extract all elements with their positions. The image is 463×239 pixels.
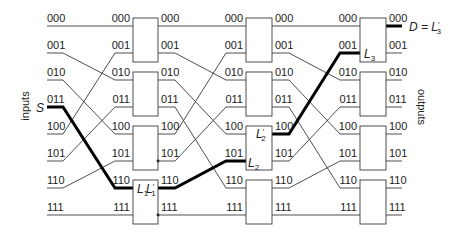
switch-box-stage-1-3 — [133, 126, 158, 170]
switch-box-stage-3-4 — [360, 180, 386, 224]
switch-box-stage-2-4 — [246, 180, 272, 224]
stage1-in-label: 111 — [113, 201, 130, 213]
outputs-axis-label: outputs — [416, 89, 428, 126]
stage2-in-label: 111 — [226, 201, 243, 213]
shuffle-exchange-network-diagram: 0000010100111001011101110000010100111001… — [0, 0, 463, 239]
stage3-in-label: 110 — [339, 174, 357, 186]
stage3-in-label: 010 — [339, 66, 357, 78]
input-label: 111 — [47, 201, 64, 213]
stage1-out-label: 110 — [161, 174, 179, 186]
output-label: 010 — [389, 66, 407, 78]
output-label: 100 — [389, 120, 407, 132]
port-labels: 0000010100111001011101110000010100111001… — [47, 12, 407, 213]
stage2-in-label: 000 — [225, 12, 243, 24]
stage1-out-label: 101 — [161, 147, 179, 159]
stage2-out-label: 000 — [275, 12, 293, 24]
input-label: 001 — [47, 39, 65, 51]
junction-dot — [157, 214, 160, 217]
label-subscript: 3 — [371, 54, 376, 63]
switch-box-stage-2-2 — [246, 72, 272, 116]
output-label: 000 — [389, 12, 407, 24]
destination-label: D = L′3 — [409, 20, 442, 36]
stage2-out-label: 011 — [275, 93, 293, 105]
stage2-in-label: 110 — [225, 174, 243, 186]
stage1-in-label: 100 — [112, 120, 130, 132]
stage3-in-label: 111 — [340, 201, 357, 213]
label-subscript: 3 — [437, 27, 442, 36]
stage1-in-label: 101 — [112, 147, 130, 159]
label-prefix: D = — [409, 20, 431, 34]
stage2-in-label: 101 — [225, 147, 243, 159]
label-subscript: 1 — [151, 189, 156, 198]
stage2-out-label: 111 — [275, 201, 292, 213]
stage1-out-label: 011 — [161, 93, 179, 105]
switch-box-stage-3-3 — [360, 126, 386, 170]
stage1-out-label: 000 — [161, 12, 179, 24]
output-label: 110 — [389, 174, 407, 186]
junction-dot — [157, 160, 160, 163]
stage1-out-label: 010 — [161, 66, 179, 78]
output-label: 001 — [389, 39, 407, 51]
stage2-out-label: 110 — [275, 174, 293, 186]
switch-box-stage-1-2 — [133, 72, 158, 116]
stage3-in-label: 001 — [339, 39, 357, 51]
label-base: L — [137, 182, 144, 196]
stage1-in-label: 011 — [112, 93, 130, 105]
inputs-axis-label: inputs — [19, 91, 31, 121]
stage3-in-label: 100 — [339, 120, 357, 132]
stage1-out-label: 100 — [161, 120, 179, 132]
label-subscript: 2 — [255, 163, 260, 172]
switch-box-stage-1-1 — [133, 18, 158, 62]
input-label: 011 — [47, 93, 65, 105]
output-label: 111 — [389, 201, 406, 213]
stage1-out-label: 001 — [161, 39, 179, 51]
stage1-in-label: 110 — [112, 174, 130, 186]
label-base: L — [248, 156, 255, 170]
label-base: L — [364, 47, 371, 61]
stage2-in-label: 001 — [225, 39, 243, 51]
stage2-in-label: 010 — [225, 66, 243, 78]
stage1-out-label: 111 — [161, 201, 178, 213]
stage2-out-label: 010 — [275, 66, 293, 78]
stage2-out-label: 100 — [275, 120, 293, 132]
stage3-in-label: 011 — [339, 93, 357, 105]
stage1-in-label: 010 — [112, 66, 130, 78]
output-label: 011 — [389, 93, 407, 105]
stage2-in-label: 100 — [225, 120, 243, 132]
output-label: 101 — [389, 147, 407, 159]
switch-box-stage-3-2 — [360, 72, 386, 116]
stage2-out-label: 001 — [275, 39, 293, 51]
input-label: 101 — [47, 147, 65, 159]
input-label: 100 — [47, 120, 65, 132]
stage1-in-label: 000 — [112, 12, 130, 24]
label-subscript: 2 — [261, 134, 266, 143]
stage3-in-label: 000 — [339, 12, 357, 24]
source-label: S — [36, 101, 44, 115]
input-label: 000 — [47, 12, 65, 24]
stage2-in-label: 011 — [225, 93, 243, 105]
stage3-in-label: 101 — [339, 147, 357, 159]
input-label: 110 — [47, 174, 65, 186]
stage1-in-label: 001 — [112, 39, 130, 51]
switch-box-stage-2-1 — [246, 18, 272, 62]
stage2-out-label: 101 — [275, 147, 293, 159]
input-label: 010 — [47, 66, 65, 78]
